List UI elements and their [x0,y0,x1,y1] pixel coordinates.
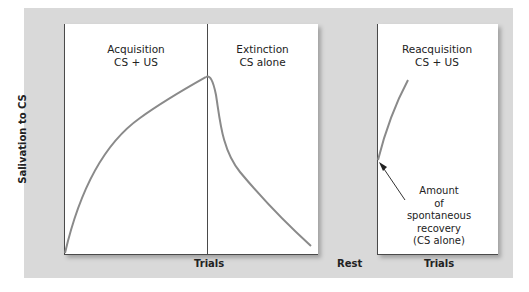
x-axis-label-trials-right: Trials [424,258,454,269]
spontaneous-recovery-annotation: Amount of spontaneous recovery (CS alone… [384,185,494,248]
extinction-curve [206,77,311,246]
curves [0,0,529,292]
annot-line: (CS alone) [384,235,494,248]
reacquisition-curve [378,80,408,160]
annot-line: spontaneous [384,210,494,223]
annot-line: recovery [384,223,494,236]
annot-line: of [384,198,494,211]
arrow-head-icon [379,162,387,171]
x-axis-label-rest: Rest [337,258,362,269]
acquisition-curve [65,77,206,253]
x-axis-label-trials-left: Trials [194,258,224,269]
y-axis-label: Salivation to CS [17,94,28,184]
annot-line: Amount [384,185,494,198]
